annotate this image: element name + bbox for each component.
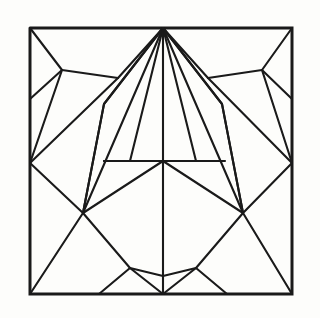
- crease-pattern-canvas: [0, 0, 320, 318]
- crease-pattern-figure: [0, 0, 320, 318]
- figure-background: [0, 0, 320, 318]
